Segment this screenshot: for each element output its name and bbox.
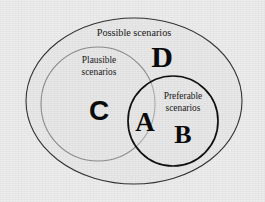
scenarios-venn-diagram: Possible scenarios Plausible scenarios P… [0, 0, 265, 202]
venn-diagram-canvas: Possible scenarios Plausible scenarios P… [0, 0, 265, 202]
preferable-scenarios-label-line2: scenarios [166, 103, 201, 113]
possible-scenarios-label: Possible scenarios [97, 27, 171, 38]
region-letter-d: D [151, 40, 173, 73]
region-letter-a: A [135, 107, 155, 137]
region-letter-b: B [174, 120, 191, 149]
plausible-scenarios-label-line2: scenarios [82, 67, 117, 77]
preferable-scenarios-label-line1: Preferable [164, 91, 203, 101]
plausible-scenarios-label-line1: Plausible [82, 55, 116, 65]
region-letter-c: C [89, 95, 109, 126]
